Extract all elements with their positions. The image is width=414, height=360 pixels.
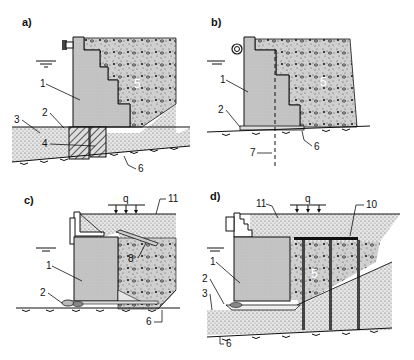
callout-3: 3 [202,288,208,299]
water-level-icon [36,61,56,67]
foundation-block-4b [90,127,106,157]
callout-8: 8 [128,253,134,264]
panel-a: a) 1 2 3 4 5 6 [12,16,190,174]
load-arrows-q [290,205,326,213]
pile [302,240,305,330]
panel-label-a: a) [22,16,32,28]
callout-4: 4 [42,138,48,149]
panel-c: c) q 1 [16,193,180,327]
callout-2: 2 [202,273,208,284]
relief-platform-10 [294,237,358,240]
callout-2: 2 [40,287,46,298]
panel-label-c: c) [24,194,34,206]
callout-1: 1 [40,78,46,89]
water-level-icon [207,61,225,64]
callout-11: 11 [256,198,267,209]
bollard-icon [232,44,242,54]
foundation-block-4 [69,127,89,159]
callout-2: 2 [42,107,48,118]
callout-1: 1 [220,74,226,85]
callout-7: 7 [250,147,256,158]
load-label-q: q [123,193,129,204]
callout-11: 11 [168,193,179,204]
callout-1: 1 [210,256,216,267]
water-level-icon [207,248,224,251]
quay-wall-diagram: a) 1 2 3 4 5 6 b [0,0,414,360]
callout-5: 5 [311,267,318,281]
wall-block-1 [234,237,290,301]
callout-6: 6 [138,163,144,174]
pile [329,240,332,330]
wall-block-1 [74,237,118,301]
load-arrows-q [108,205,145,214]
callout-2: 2 [218,104,224,115]
panel-b: b) 1 2 5 6 7 [207,16,370,168]
callout-6: 6 [146,316,152,327]
panel-label-b: b) [211,16,222,28]
panel-d: d) q [202,190,400,349]
callout-3: 3 [14,114,20,125]
callout-10: 10 [366,199,378,210]
callout-5: 5 [320,75,327,89]
callout-6: 6 [314,141,320,152]
pile [357,240,360,330]
panel-label-d: d) [210,190,221,202]
callout-1: 1 [46,260,52,271]
callout-6: 6 [226,338,232,349]
water-level-icon [36,248,56,251]
load-label-q: q [305,193,311,204]
callout-5: 5 [134,77,141,91]
